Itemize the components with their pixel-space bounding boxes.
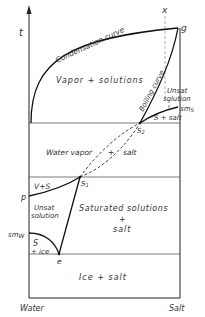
region-saturated-1: Saturated solutions [79,204,168,213]
solubility-curve-lower [59,177,80,254]
region-saturated-3: salt [113,225,131,234]
smW-text: sm [8,231,19,239]
region-water-vapor: Water vapor [46,148,93,157]
region-water-vapor-salt: salt [123,148,138,157]
region-unsat-top-1: Unsat [167,87,187,95]
region-unsat-left-1: Unsat [34,204,54,212]
region-s-salt: S + salt [154,114,182,122]
s2-sub: 2 [141,129,144,135]
region-vapor-solutions: Vapor + solutions [56,76,144,85]
region-s-ice-2: + ice [31,248,49,256]
region-saturated-2: + [119,215,126,224]
region-water-vapor-plus: + [108,148,114,157]
smS-sub: S [190,107,194,113]
x-axis-left-label: Water [20,304,44,313]
smW-label: smW [8,231,25,239]
point-s1 [79,176,81,178]
x-point-label: x [161,5,168,15]
s1-point-label: S1 [81,180,89,188]
point-s2 [139,122,141,124]
e-point-label: e [57,257,62,266]
dashed-curves [80,100,169,177]
region-unsat-left-2: solution [31,212,59,220]
point-e [58,253,60,255]
region-v-s: V+S [34,182,50,191]
condensation-curve-label: Condensation curve [54,25,126,65]
s2-point-label: S2 [137,127,145,135]
phase-diagram: t x g Condensation curve Boiling curve V… [0,0,205,317]
smW-sub: W [18,232,25,239]
smS-label: smS [180,105,194,113]
s1-sub: 1 [85,182,88,188]
points [58,122,141,255]
x-axis-right-label: Salt [169,304,185,313]
y-axis-label: t [19,27,24,38]
region-unsat-top-2: solution [163,95,191,103]
p-point-label: p [20,193,26,202]
curves [29,28,178,254]
region-ice-salt: Ice + salt [79,273,127,282]
region-s-ice-1: S [33,239,38,248]
g-point-label: g [181,23,187,33]
smS-text: sm [180,105,191,113]
y-axis-arrow-icon [27,5,32,14]
